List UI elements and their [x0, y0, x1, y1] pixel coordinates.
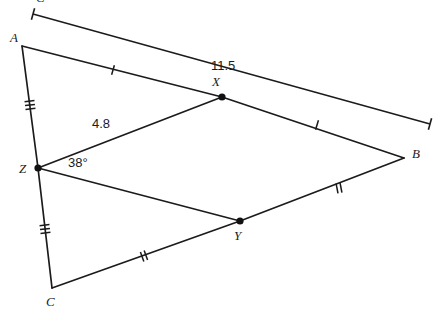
- measurement-label-side-length: 11.5: [211, 58, 235, 73]
- geometry-figure: ABCXYZC11.54.838°: [0, 0, 445, 322]
- angle-label-z: 38°: [68, 155, 88, 170]
- tick-Y-B-mark-2: [340, 183, 342, 193]
- vertex-dot-x: [218, 93, 225, 100]
- vertex-label-c: C: [46, 294, 55, 309]
- measurement-label-midsegment: 4.8: [92, 116, 110, 131]
- vertex-label-a: A: [9, 30, 18, 45]
- vertex-dot-z: [34, 164, 41, 171]
- tick-Z-C-mark-2: [40, 228, 50, 229]
- tick-Y-B: [336, 183, 342, 194]
- tick-A-Z-mark-2: [25, 104, 35, 105]
- segment-Y-B: [240, 158, 404, 221]
- geometry-canvas: ABCXYZC11.54.838°: [0, 0, 445, 322]
- tick-Z-C-mark-1: [40, 224, 50, 225]
- clipped-vertex-label: C: [36, 0, 45, 5]
- vertex-label-y: Y: [234, 228, 243, 243]
- vertex-label-b: B: [412, 146, 420, 161]
- vertex-label-x: X: [211, 74, 221, 89]
- tick-A-Z-mark-1: [25, 100, 35, 101]
- vertex-label-z: Z: [19, 161, 27, 176]
- segment-Z-Y: [38, 168, 240, 221]
- tick-Y-B-mark-1: [336, 183, 338, 193]
- segment-A-Z: [22, 46, 38, 168]
- segment-A-X: [22, 46, 222, 97]
- vertex-dot-y: [236, 217, 243, 224]
- tick-A-Z-mark-3: [26, 108, 36, 109]
- segment-Z-X: [38, 97, 222, 168]
- tick-Z-C-mark-3: [41, 232, 51, 233]
- segment-X-B: [222, 97, 404, 158]
